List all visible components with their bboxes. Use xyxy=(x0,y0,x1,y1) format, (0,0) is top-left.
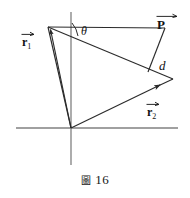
label-d: d xyxy=(159,59,166,72)
figure-caption: 圖 16 xyxy=(0,172,190,188)
label-r1: r 1 xyxy=(22,33,31,51)
label-r1-subscript: 1 xyxy=(27,42,31,51)
label-r2-subscript: 2 xyxy=(152,112,156,121)
label-p-vector: P xyxy=(157,16,165,32)
figure-16-container: r 1 θ P d r 2 圖 16 xyxy=(0,0,190,198)
label-p-base: P xyxy=(157,18,165,31)
label-r1-base: r xyxy=(22,36,27,48)
caption-cjk-label: 圖 xyxy=(81,175,92,186)
p-line xyxy=(48,27,165,28)
r2-line-tail xyxy=(158,79,173,86)
label-r2: r 2 xyxy=(147,103,156,121)
r1-line xyxy=(51,30,72,129)
diagonal-line xyxy=(48,27,173,79)
label-theta: θ xyxy=(81,25,87,37)
label-r2-base: r xyxy=(147,106,152,118)
theta-arc xyxy=(72,23,78,36)
caption-number: 16 xyxy=(95,172,109,187)
